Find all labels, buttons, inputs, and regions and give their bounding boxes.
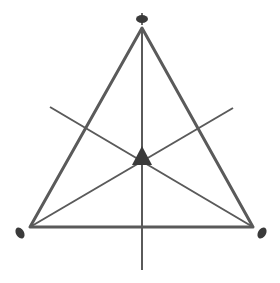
bottom-right-vertex-marker [256, 226, 269, 240]
centroid-triangle-marker [132, 146, 152, 165]
median-line-left [30, 108, 233, 227]
median-line-right [50, 107, 253, 227]
bottom-left-vertex-marker [14, 226, 27, 240]
triangle-diagram [0, 0, 280, 283]
